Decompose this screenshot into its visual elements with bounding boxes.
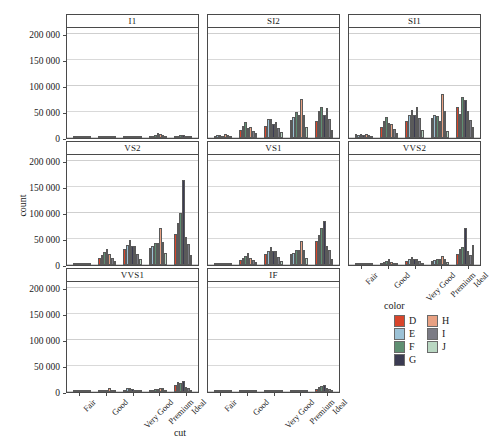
bar-Good-J[interactable] xyxy=(255,390,258,392)
bar-Premium-J[interactable] xyxy=(446,262,449,265)
legend: colorDEFGHIJ xyxy=(370,300,496,380)
bar-Ideal-J[interactable] xyxy=(331,259,334,265)
bar-Premium-J[interactable] xyxy=(164,136,167,138)
y-tick-label-r2-50000: 50 000 xyxy=(34,362,60,372)
facet-strip-label-VS2: VS2 xyxy=(66,141,199,155)
y-axis-title: count xyxy=(17,176,28,236)
bar-Ideal-J[interactable] xyxy=(190,390,193,392)
bar-Good-J[interactable] xyxy=(114,261,117,265)
bar-Fair-J[interactable] xyxy=(370,263,373,265)
bar-Premium-J[interactable] xyxy=(305,127,308,138)
x-tick-label-if-Fair: Fair xyxy=(222,397,239,414)
bar-Fair-J[interactable] xyxy=(229,136,232,138)
y-tick-label-r0-200000: 200 000 xyxy=(29,30,60,40)
bar-Fair-J[interactable] xyxy=(88,390,91,392)
x-tick-mark-if-Good xyxy=(247,393,248,396)
bar-group-Very Good xyxy=(123,282,141,392)
bar-Good-J[interactable] xyxy=(114,390,117,392)
bar-Very Good-J[interactable] xyxy=(421,130,424,138)
bar-Fair-J[interactable] xyxy=(370,136,373,138)
bar-Fair-J[interactable] xyxy=(88,136,91,138)
bar-Good-J[interactable] xyxy=(114,136,117,138)
bar-Fair-J[interactable] xyxy=(229,263,232,265)
y-tick-label-r2-150000: 150 000 xyxy=(29,310,60,320)
legend-item-F[interactable]: F xyxy=(394,340,416,353)
y-tick-label-r0-150000: 150 000 xyxy=(29,56,60,66)
legend-item-E[interactable]: E xyxy=(394,327,416,340)
x-tick-mark-vvs1-Premium xyxy=(159,393,160,396)
x-tick-mark-vvs2-Ideal xyxy=(468,266,469,269)
bar-Good-J[interactable] xyxy=(255,133,258,138)
bar-Good-J[interactable] xyxy=(396,133,399,138)
bar-group-Ideal xyxy=(456,28,474,138)
bar-group-Ideal xyxy=(174,282,192,392)
bar-group-Premium xyxy=(290,155,308,265)
bar-Ideal-J[interactable] xyxy=(472,245,475,265)
bar-Fair-J[interactable] xyxy=(229,390,232,392)
bar-Good-J[interactable] xyxy=(255,262,258,265)
legend-item-I[interactable]: I xyxy=(427,327,449,340)
legend-swatch-F xyxy=(394,341,405,353)
legend-item-D[interactable]: D xyxy=(394,314,416,327)
legend-item-J[interactable]: J xyxy=(427,340,449,353)
bar-Ideal-J[interactable] xyxy=(472,127,475,138)
bar-group-Very Good xyxy=(264,28,282,138)
y-tick-label-r0-0: 0 xyxy=(55,134,60,144)
facet-strip-label-VVS1: VVS1 xyxy=(66,268,199,282)
bar-Ideal-J[interactable] xyxy=(190,136,193,138)
bar-Very Good-J[interactable] xyxy=(139,390,142,392)
bar-container-VVS2 xyxy=(349,155,480,265)
legend-label-E: E xyxy=(409,328,415,339)
y-tick-mark-r1-150000 xyxy=(63,188,66,189)
bar-Very Good-J[interactable] xyxy=(280,132,283,138)
y-tick-mark-r1-100000 xyxy=(63,214,66,215)
y-tick-label-r1-100000: 100 000 xyxy=(29,209,60,219)
legend-swatch-J xyxy=(427,341,438,353)
bar-Ideal-J[interactable] xyxy=(331,390,334,392)
bar-Premium-J[interactable] xyxy=(305,390,308,392)
facet-strip-label-VVS2: VVS2 xyxy=(348,141,481,155)
bar-group-Premium xyxy=(149,28,167,138)
bar-Fair-J[interactable] xyxy=(88,263,91,265)
x-tick-mark-vvs1-Fair xyxy=(79,393,80,396)
facet-strip-label-SI1: SI1 xyxy=(348,14,481,28)
facet-panel-I1: I1 xyxy=(66,14,199,139)
bar-group-Fair xyxy=(73,28,91,138)
bar-Very Good-J[interactable] xyxy=(421,263,424,265)
x-tick-mark-vvs2-Fair xyxy=(361,266,362,269)
facet-panel-SI2: SI2 xyxy=(207,14,340,139)
bar-Very Good-J[interactable] xyxy=(280,261,283,265)
legend-label-D: D xyxy=(409,315,416,326)
y-tick-mark-r2-0 xyxy=(63,393,66,394)
y-tick-mark-r0-0 xyxy=(63,139,66,140)
bar-group-Fair xyxy=(73,155,91,265)
bar-Very Good-J[interactable] xyxy=(280,390,283,392)
legend-item-G[interactable]: G xyxy=(394,353,416,366)
bar-Premium-J[interactable] xyxy=(164,390,167,392)
bar-Very Good-J[interactable] xyxy=(139,259,142,265)
bar-Premium-J[interactable] xyxy=(164,253,167,265)
y-tick-label-r1-200000: 200 000 xyxy=(29,157,60,167)
legend-item-H[interactable]: H xyxy=(427,314,449,327)
y-tick-mark-r2-100000 xyxy=(63,341,66,342)
plot-area-VS2 xyxy=(66,154,199,266)
plot-area-VS1 xyxy=(207,154,340,266)
x-tick-mark-vvs2-Very Good xyxy=(415,266,416,269)
bar-Ideal-J[interactable] xyxy=(331,130,334,138)
bar-Very Good-J[interactable] xyxy=(139,136,142,138)
bar-container-SI1 xyxy=(349,28,480,138)
bar-group-Premium xyxy=(149,155,167,265)
facet-panel-VS1: VS1 xyxy=(207,141,340,266)
x-tick-mark-if-Ideal xyxy=(327,393,328,396)
y-tick-label-r0-50000: 50 000 xyxy=(34,108,60,118)
bar-Premium-J[interactable] xyxy=(305,258,308,265)
legend-label-J: J xyxy=(442,341,446,352)
bar-Premium-J[interactable] xyxy=(446,131,449,138)
x-tick-label-vvs1-Good: Good xyxy=(109,397,129,417)
bar-Good-J[interactable] xyxy=(396,263,399,265)
legend-swatch-E xyxy=(394,328,405,340)
bar-group-Premium xyxy=(290,282,308,392)
bar-Ideal-J[interactable] xyxy=(190,255,193,265)
y-tick-mark-r0-200000 xyxy=(63,35,66,36)
bar-group-Premium xyxy=(431,155,449,265)
